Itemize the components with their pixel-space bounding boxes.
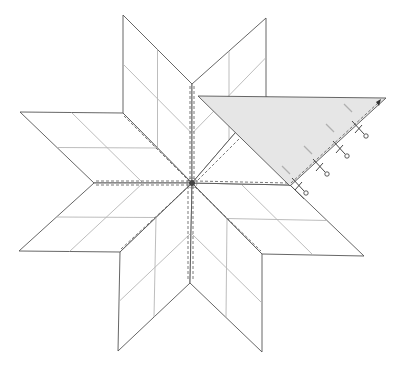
pin-2 [313, 159, 329, 176]
quilt-star-diagram [0, 0, 398, 371]
pin-3 [333, 141, 349, 158]
diagram-canvas [0, 0, 398, 371]
pin-4 [352, 121, 368, 138]
